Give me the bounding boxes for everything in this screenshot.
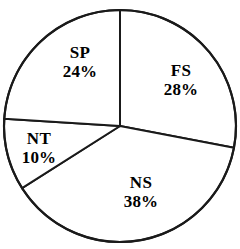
pie-label-name: NS (124, 174, 158, 192)
pie-label-name: FS (164, 62, 198, 80)
pie-slice-group (4, 10, 236, 242)
pie-label-name: SP (63, 44, 97, 62)
pie-label-fs: FS28% (164, 62, 198, 98)
pie-chart-svg (0, 0, 240, 249)
pie-label-value: 24% (63, 63, 97, 81)
pie-chart-figure: FS28%NS38%NT10%SP24% (0, 0, 240, 249)
pie-label-value: 38% (124, 193, 158, 211)
pie-label-name: NT (22, 130, 56, 148)
pie-label-sp: SP24% (63, 44, 97, 80)
pie-label-value: 28% (164, 81, 198, 99)
pie-label-ns: NS38% (124, 174, 158, 210)
pie-label-nt: NT10% (22, 130, 56, 166)
pie-label-value: 10% (22, 149, 56, 167)
